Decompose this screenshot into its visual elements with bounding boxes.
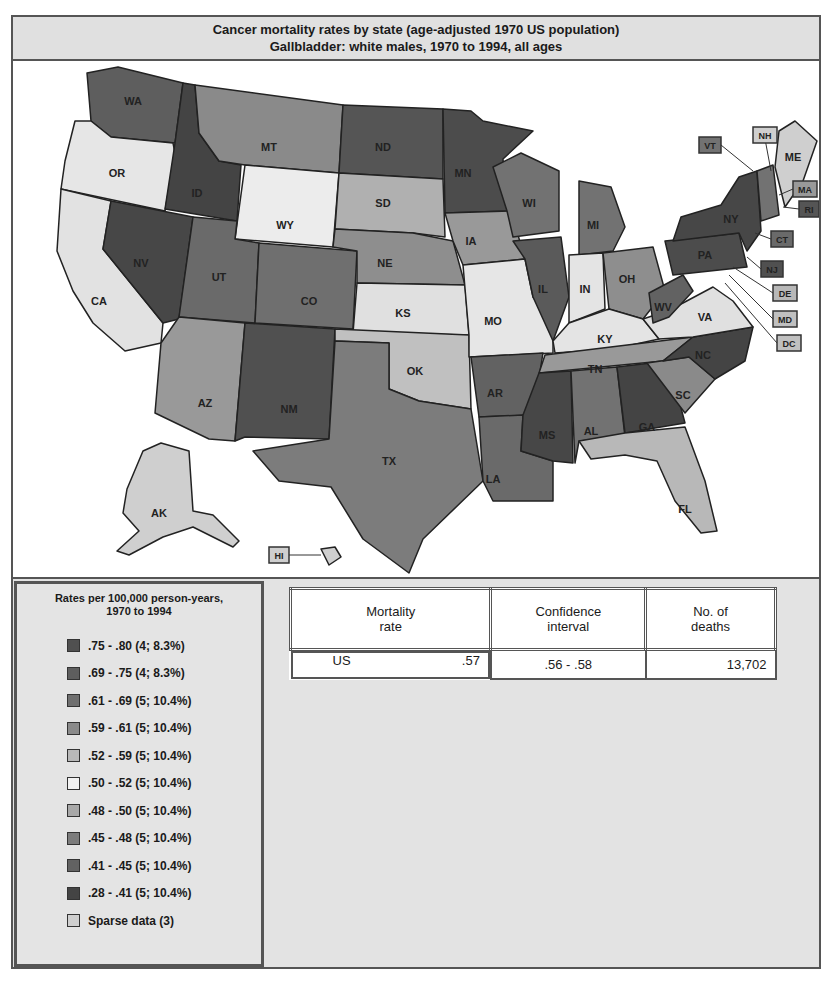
- label-CO: CO: [301, 295, 318, 307]
- header-deaths: No. ofdeaths: [646, 589, 776, 650]
- legend-swatch-icon: [67, 804, 80, 817]
- legend-swatch-icon: [67, 887, 80, 900]
- state-NM[interactable]: [235, 323, 335, 441]
- title-line-1: Cancer mortality rates by state (age-adj…: [13, 21, 819, 38]
- label-MT: MT: [261, 141, 277, 153]
- label-NC: NC: [695, 349, 711, 361]
- callout-CT[interactable]: CT: [771, 231, 793, 247]
- cell-ci: .56 - .58: [491, 650, 646, 680]
- label-AL: AL: [584, 425, 599, 437]
- state-KS[interactable]: [353, 283, 469, 335]
- callout-DC[interactable]: DC: [777, 335, 801, 351]
- legend-label: .75 - .80 (4; 8.3%): [88, 639, 185, 653]
- legend-item: .59 - .61 (5; 10.4%): [17, 715, 261, 743]
- legend-item: .75 - .80 (4; 8.3%): [17, 632, 261, 660]
- table-row: US .57 .56 - .58 13,702: [291, 650, 776, 680]
- label-UT: UT: [212, 271, 227, 283]
- label-AR: AR: [487, 387, 503, 399]
- svg-text:NJ: NJ: [766, 265, 778, 275]
- state-CO[interactable]: [255, 243, 357, 329]
- legend-swatch-icon: [67, 749, 80, 762]
- label-ME: ME: [785, 151, 802, 163]
- state-ND[interactable]: [339, 105, 443, 179]
- cell-us-rate: US .57: [291, 651, 490, 679]
- svg-text:MD: MD: [778, 315, 792, 325]
- stats-table: Mortalityrate Confidenceinterval No. ofd…: [289, 587, 777, 659]
- label-PA: PA: [698, 249, 713, 261]
- callout-RI[interactable]: RI: [799, 201, 819, 217]
- svg-text:DE: DE: [779, 289, 792, 299]
- svg-text:RI: RI: [805, 205, 814, 215]
- label-NM: NM: [280, 403, 297, 415]
- legend-swatch-icon: [67, 859, 80, 872]
- label-LA: LA: [486, 473, 501, 485]
- cell-deaths: 13,702: [646, 650, 776, 680]
- label-WA: WA: [124, 95, 142, 107]
- state-AK[interactable]: [117, 443, 239, 555]
- legend-label: .50 - .52 (5; 10.4%): [88, 776, 191, 790]
- legend-title-line-1: Rates per 100,000 person-years,: [17, 592, 261, 605]
- legend-swatch-icon: [67, 667, 80, 680]
- legend: Rates per 100,000 person-years, 1970 to …: [14, 581, 264, 967]
- label-MO: MO: [484, 315, 502, 327]
- label-ND: ND: [375, 141, 391, 153]
- legend-label: .61 - .69 (5; 10.4%): [88, 694, 191, 708]
- legend-label: .69 - .75 (4; 8.3%): [88, 666, 185, 680]
- svg-text:CT: CT: [776, 235, 788, 245]
- region-label: US: [333, 653, 351, 677]
- label-FL: FL: [678, 503, 692, 515]
- label-NY: NY: [723, 213, 739, 225]
- callout-NJ[interactable]: NJ: [761, 261, 783, 277]
- header-mortality-rate: Mortalityrate: [291, 589, 491, 650]
- svg-text:NH: NH: [759, 131, 772, 141]
- rate-value: .57: [462, 653, 480, 677]
- label-SD: SD: [375, 197, 390, 209]
- legend-item: .28 - .41 (5; 10.4%): [17, 880, 261, 908]
- legend-item: .50 - .52 (5; 10.4%): [17, 770, 261, 798]
- label-MI: MI: [587, 219, 599, 231]
- state-HI[interactable]: [321, 547, 341, 565]
- svg-text:HI: HI: [275, 551, 284, 561]
- state-FL[interactable]: [579, 427, 717, 533]
- callout-MD[interactable]: MD: [773, 311, 797, 327]
- legend-label: .59 - .61 (5; 10.4%): [88, 721, 191, 735]
- state-AZ[interactable]: [155, 317, 245, 441]
- label-ID: ID: [192, 187, 203, 199]
- label-OR: OR: [109, 167, 126, 179]
- label-OK: OK: [407, 365, 424, 377]
- label-GA: GA: [639, 421, 656, 433]
- svg-text:MA: MA: [798, 185, 812, 195]
- legend-swatch-icon: [67, 832, 80, 845]
- callout-VT[interactable]: VT: [699, 137, 721, 153]
- legend-label: .48 - .50 (5; 10.4%): [88, 804, 191, 818]
- callout-NH[interactable]: NH: [753, 127, 777, 143]
- legend-items: .75 - .80 (4; 8.3%).69 - .75 (4; 8.3%).6…: [17, 632, 261, 935]
- callout-MA[interactable]: MA: [793, 181, 817, 197]
- callout-HI[interactable]: HI: [269, 547, 289, 563]
- state-WY[interactable]: [235, 165, 339, 247]
- svg-text:DC: DC: [783, 339, 796, 349]
- legend-item: .61 - .69 (5; 10.4%): [17, 687, 261, 715]
- label-CA: CA: [91, 295, 107, 307]
- label-WY: WY: [276, 219, 294, 231]
- label-MN: MN: [454, 167, 471, 179]
- legend-item: Sparse data (3): [17, 907, 261, 935]
- legend-label: .41 - .45 (5; 10.4%): [88, 859, 191, 873]
- state-VT-NH-MA[interactable]: [757, 165, 779, 221]
- label-NE: NE: [377, 257, 392, 269]
- legend-swatch-icon: [67, 914, 80, 927]
- legend-item: .69 - .75 (4; 8.3%): [17, 660, 261, 688]
- svg-text:VT: VT: [704, 141, 716, 151]
- legend-swatch-icon: [67, 777, 80, 790]
- us-map: WA OR CA ID NV MT WY UT CO AZ NM ND SD N…: [13, 61, 819, 579]
- legend-item: .41 - .45 (5; 10.4%): [17, 852, 261, 880]
- callout-DE[interactable]: DE: [773, 285, 797, 301]
- state-MI[interactable]: [579, 181, 625, 255]
- legend-swatch-icon: [67, 722, 80, 735]
- label-AZ: AZ: [198, 397, 213, 409]
- label-WI: WI: [522, 197, 535, 209]
- legend-title: Rates per 100,000 person-years, 1970 to …: [17, 592, 261, 618]
- label-IA: IA: [466, 235, 477, 247]
- label-AK: AK: [151, 507, 167, 519]
- legend-label: .45 - .48 (5; 10.4%): [88, 831, 191, 845]
